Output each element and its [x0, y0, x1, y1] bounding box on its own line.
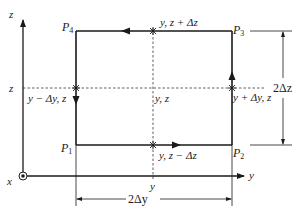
- midpoint-label-center: y, z: [155, 93, 169, 104]
- arrow-bottom-right-icon: [172, 142, 181, 149]
- dimension-label-width: 2Δy: [128, 193, 148, 205]
- corner-label-p2: P2: [233, 147, 244, 161]
- midpoint-label-right: y + Δy, z: [233, 92, 271, 103]
- dimension-label-height: 2Δz: [273, 82, 292, 94]
- arrow-right-up-icon: [229, 71, 236, 80]
- arrow-top-left-icon: [121, 28, 130, 35]
- y-axis-label: y: [249, 170, 254, 181]
- midpoint-label-left: y − Δy, z: [28, 93, 66, 104]
- z-axis-label: z: [9, 9, 13, 20]
- midpoint-label-bottom: y, z − Δz: [159, 150, 197, 161]
- midpoint-label-top: y, z + Δz: [160, 17, 198, 28]
- corner-label-p3: P3: [233, 24, 244, 38]
- flux-loop-diagram: z y x z y P1 P2 P3 P4 y, z + Δz y, z − Δ…: [0, 0, 301, 213]
- z-tick-label: z: [9, 83, 13, 94]
- corner-label-p4: P4: [62, 21, 73, 35]
- corner-label-p1: P1: [61, 142, 72, 156]
- y-tick-label: y: [150, 181, 155, 192]
- x-axis-label: x: [7, 176, 12, 187]
- x-axis-out-of-page-icon: [19, 172, 27, 180]
- arrow-left-down-icon: [73, 96, 80, 105]
